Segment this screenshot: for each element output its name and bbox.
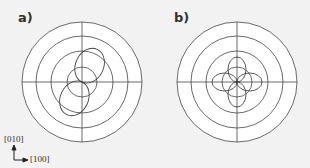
axes-indicator-arrows [12,145,28,162]
polar-diagrams [0,0,310,168]
axis-label-010: [010] [4,134,24,144]
polar-plot-a [22,22,142,142]
polar-plot-b [177,22,297,142]
axis-label-100: [100] [30,154,50,164]
